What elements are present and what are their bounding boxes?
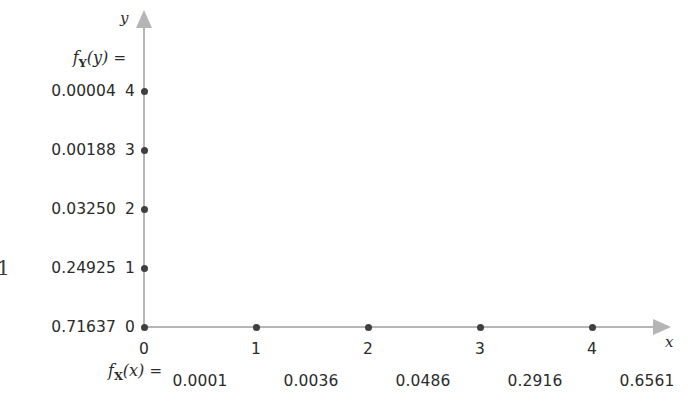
page-edge-artifact: 1	[0, 258, 10, 278]
x-tick-label-0: 0	[139, 340, 149, 358]
marginal-x-pdf-subscript: X	[114, 369, 123, 383]
x-tick-label-3: 3	[475, 340, 485, 358]
marginal-x-value-2: 0.0486	[396, 372, 451, 390]
marginal-x-value-4: 0.6561	[620, 372, 675, 390]
y-axis-name: y	[120, 9, 128, 27]
marginal-y-value-2: 0.03250	[51, 200, 116, 218]
marginal-y-value-4: 0.00004	[51, 82, 116, 100]
x-axis-name: x	[665, 333, 673, 351]
y-tick-label-0: 0	[125, 318, 135, 336]
y-tick-label-2: 2	[125, 200, 135, 218]
data-point	[141, 206, 148, 213]
y-tick-label-4: 4	[125, 82, 135, 100]
x-tick-label-2: 2	[363, 340, 373, 358]
data-point	[141, 265, 148, 272]
data-point	[365, 324, 372, 331]
x-tick-label-1: 1	[251, 340, 261, 358]
marginal-x-value-1: 0.0036	[284, 372, 339, 390]
data-point	[141, 88, 148, 95]
marginal-x-value-3: 0.2916	[508, 372, 563, 390]
marginal-x-pdf-arg: (x)	[123, 361, 145, 380]
marginal-x-pdf-label: fX(x) =	[108, 361, 162, 382]
marginal-y-value-1: 0.24925	[51, 259, 116, 277]
x-tick-label-4: 4	[587, 340, 597, 358]
data-point	[141, 147, 148, 154]
data-point	[141, 324, 148, 331]
marginal-x-value-0: 0.0001	[173, 372, 228, 390]
marginal-y-value-3: 0.00188	[51, 141, 116, 159]
marginal-y-pdf-label: fY(y) =	[73, 48, 126, 69]
marginal-x-pdf-equals: =	[149, 362, 162, 380]
data-point	[253, 324, 260, 331]
marginal-y-pdf-arg: (y)	[87, 48, 109, 67]
marginal-y-pdf-subscript: Y	[79, 56, 87, 70]
marginal-y-value-0: 0.71637	[51, 318, 116, 336]
data-point	[589, 324, 596, 331]
marginal-y-pdf-equals: =	[113, 49, 126, 67]
data-point	[477, 324, 484, 331]
y-tick-label-3: 3	[125, 141, 135, 159]
chart-canvas: y x fY(y) = fX(x) = 4 3 2 1 0 0.00004 0.…	[0, 0, 699, 410]
y-tick-label-1: 1	[125, 259, 135, 277]
